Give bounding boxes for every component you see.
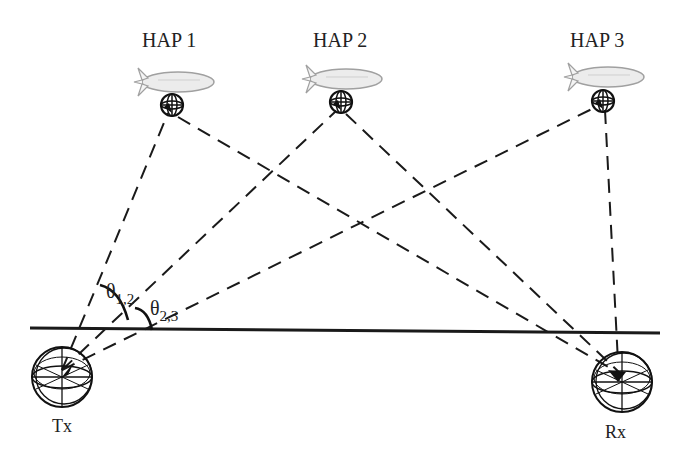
theta-23-label: θ2,3 (150, 297, 178, 324)
link-hap1-rx (178, 117, 622, 375)
antenna-icon (592, 90, 614, 112)
hap-1-label: HAP 1 (142, 29, 196, 51)
rx-links (178, 110, 622, 375)
rx-antenna-icon (592, 352, 652, 412)
hap-1: HAP 1 (134, 29, 214, 116)
link-hap2-rx (346, 114, 622, 375)
ground-line (30, 328, 660, 333)
hap-3: HAP 3 (564, 29, 644, 112)
blimp-icon (564, 63, 644, 91)
antenna-icon (161, 94, 183, 116)
blimp-icon (134, 68, 214, 96)
tx-label: Tx (52, 416, 72, 436)
theta-12-label: θ1,2 (106, 280, 134, 307)
rx-label: Rx (605, 422, 626, 442)
blimp-icon (302, 65, 382, 93)
diagram-canvas: HAP 1 HAP 2 HAP 3 Tx Rx θ1,2 θ2,3 (0, 0, 699, 460)
hap-2-label: HAP 2 (313, 29, 367, 51)
link-hap3-rx (605, 110, 618, 362)
rx-station: Rx (592, 352, 652, 442)
antenna-icon (330, 91, 352, 113)
hap-2: HAP 2 (302, 29, 382, 113)
link-tx-hap1 (62, 113, 168, 370)
hap-3-label: HAP 3 (570, 29, 624, 51)
